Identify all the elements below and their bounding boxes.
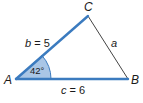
angle-a-label: 42° <box>30 65 45 76</box>
triangle-diagram: A B C b = 5 a c = 6 42° <box>0 0 143 103</box>
side-a <box>88 16 128 79</box>
side-a-label: a <box>111 37 117 49</box>
side-c-value: = 6 <box>67 84 86 96</box>
side-b-value: = 5 <box>31 37 50 49</box>
vertex-b-label: B <box>131 73 139 87</box>
side-b-label: b = 5 <box>25 37 50 49</box>
vertex-a-label: A <box>3 73 12 87</box>
vertex-c-label: C <box>84 0 93 14</box>
side-c-label: c = 6 <box>61 84 85 96</box>
